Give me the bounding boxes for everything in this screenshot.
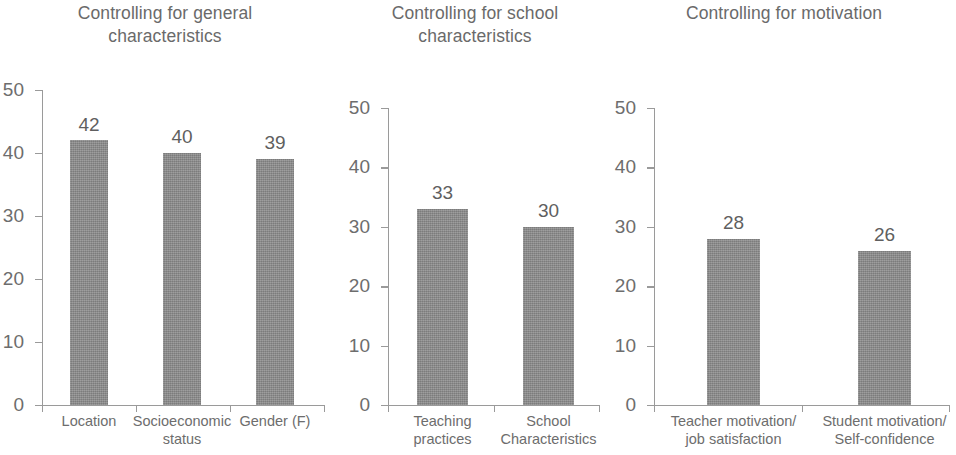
category-label: Student motivation/ Self-confidence (810, 412, 956, 448)
plot-area: 0 10 20 30 40 50 33 30 (388, 108, 600, 405)
y-tick-label: 0 (13, 394, 24, 416)
bar-value-label: 40 (171, 126, 192, 148)
bar (70, 140, 108, 405)
bar (523, 227, 574, 405)
bar-value-label: 30 (538, 200, 559, 222)
x-tick (230, 405, 231, 412)
category-label: Teaching practices (390, 412, 495, 448)
x-tick (802, 405, 803, 412)
y-tick-label: 40 (615, 156, 636, 178)
panel-title: Controlling for motivation (612, 2, 956, 25)
y-axis-line (388, 108, 389, 405)
chart-panel-school-characteristics: Controlling for school characteristics 0… (340, 0, 610, 455)
y-axis-line (42, 90, 43, 405)
y-tick-20: 20 (381, 286, 388, 287)
bar-value-label: 42 (78, 114, 99, 136)
bar (256, 159, 294, 405)
x-tick (654, 405, 655, 412)
y-tick-10: 10 (35, 342, 42, 343)
y-axis-line (654, 108, 655, 405)
x-axis-line (42, 405, 325, 406)
y-tick-label: 50 (3, 79, 24, 101)
y-tick-50: 50 (381, 108, 388, 109)
y-tick-30: 30 (647, 227, 654, 228)
y-tick-label: 50 (615, 97, 636, 119)
bar-value-label: 26 (874, 224, 895, 246)
category-label: Teacher motivation/ job satisfaction (659, 412, 809, 448)
y-tick-label: 30 (349, 216, 370, 238)
bar-value-label: 33 (432, 182, 453, 204)
y-tick-label: 40 (3, 142, 24, 164)
bar-value-label: 28 (723, 212, 744, 234)
panel-title: Controlling for general characteristics (0, 2, 330, 48)
x-tick (599, 405, 600, 412)
y-tick-label: 30 (3, 205, 24, 227)
y-tick-0: 0 (647, 405, 654, 406)
y-tick-20: 20 (35, 279, 42, 280)
y-tick-10: 10 (647, 346, 654, 347)
bar (858, 251, 911, 405)
y-tick-label: 20 (349, 275, 370, 297)
y-tick-10: 10 (381, 346, 388, 347)
x-tick (42, 405, 43, 412)
bar (417, 209, 468, 405)
y-tick-50: 50 (647, 108, 654, 109)
y-tick-label: 20 (3, 268, 24, 290)
x-tick (388, 405, 389, 412)
y-tick-40: 40 (647, 167, 654, 168)
y-tick-label: 10 (3, 331, 24, 353)
y-tick-label: 0 (359, 394, 370, 416)
bar-chart-figure: Controlling for general characteristics … (0, 0, 956, 455)
y-tick-20: 20 (647, 286, 654, 287)
x-tick (136, 405, 137, 412)
plot-area: 0 10 20 30 40 50 (42, 90, 325, 405)
y-tick-label: 20 (615, 275, 636, 297)
chart-panel-motivation: Controlling for motivation 0 10 20 30 40… (612, 0, 956, 455)
y-tick-40: 40 (35, 153, 42, 154)
y-tick-label: 10 (615, 335, 636, 357)
bar (163, 153, 201, 405)
y-tick-label: 50 (349, 97, 370, 119)
y-tick-0: 0 (35, 405, 42, 406)
plot-area: 0 10 20 30 40 50 28 26 (654, 108, 950, 405)
x-tick (494, 405, 495, 412)
y-tick-0: 0 (381, 405, 388, 406)
panel-title: Controlling for school characteristics (340, 2, 610, 48)
y-tick-30: 30 (35, 216, 42, 217)
y-tick-label: 0 (625, 394, 636, 416)
category-label: School Characteristics (489, 412, 609, 448)
x-tick (949, 405, 950, 412)
y-tick-40: 40 (381, 167, 388, 168)
y-tick-label: 40 (349, 156, 370, 178)
y-tick-30: 30 (381, 227, 388, 228)
chart-panel-general-characteristics: Controlling for general characteristics … (0, 0, 330, 455)
bar-value-label: 39 (264, 132, 285, 154)
category-label: Gender (F) (220, 412, 330, 430)
y-tick-label: 30 (615, 216, 636, 238)
bar (707, 239, 760, 405)
y-tick-label: 10 (349, 335, 370, 357)
y-tick-50: 50 (35, 90, 42, 91)
x-tick (324, 405, 325, 412)
